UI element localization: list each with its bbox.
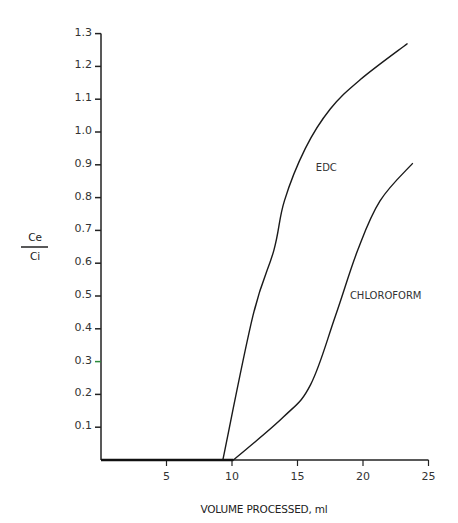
x-axis-label: VOLUME PROCESSED, ml: [200, 503, 327, 515]
breakthrough-chart: 0.10.20.30.40.50.60.70.80.91.01.11.21.3 …: [0, 0, 458, 523]
x-tick-label: 20: [356, 470, 370, 483]
y-tick-label: 0.7: [75, 222, 93, 235]
series-labels: EDCCHLOROFORM: [316, 162, 422, 301]
y-tick-label: 0.5: [75, 288, 93, 301]
y-tick-label: 0.8: [75, 190, 93, 203]
y-axis-label-numerator: Ce: [28, 231, 41, 243]
y-tick-label: 1.3: [75, 26, 93, 39]
series-label-chloroform: CHLOROFORM: [350, 290, 422, 301]
y-tick-label: 0.2: [75, 386, 93, 399]
y-tick-label: 1.0: [75, 124, 93, 137]
y-tick-label: 0.1: [75, 419, 93, 432]
x-axis: 510152025: [101, 460, 436, 483]
y-tick-label: 0.4: [75, 321, 93, 334]
series-lines: [101, 43, 413, 460]
y-tick-label: 1.2: [75, 58, 93, 71]
y-tick-label: 1.1: [75, 91, 93, 104]
series-line-chloroform: [101, 163, 413, 460]
series-label-edc: EDC: [316, 162, 337, 173]
y-tick-label: 0.6: [75, 255, 93, 268]
x-tick-label: 25: [422, 470, 436, 483]
y-tick-label: 0.9: [75, 157, 93, 170]
y-axis-label-denominator: Ci: [30, 250, 40, 262]
series-line-edc: [101, 43, 408, 460]
x-tick-label: 5: [163, 470, 170, 483]
y-tick-label: 0.3: [75, 354, 93, 367]
x-tick-label: 15: [291, 470, 305, 483]
y-axis: 0.10.20.30.40.50.60.70.80.91.01.11.21.3: [75, 26, 102, 460]
x-tick-label: 10: [225, 470, 239, 483]
